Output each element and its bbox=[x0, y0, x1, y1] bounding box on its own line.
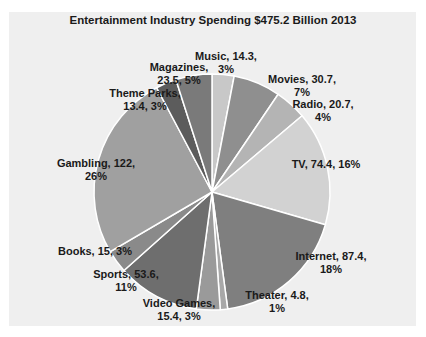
slice-label-magazines: Magazines,23.5, 5% bbox=[150, 61, 209, 86]
slice-label-tv: TV, 74.4, 16% bbox=[292, 158, 361, 170]
pie-chart: Music, 14.3,3%Movies, 30.7,7%Radio, 20.7… bbox=[0, 0, 426, 337]
slice-label-books: Books, 15, 3% bbox=[58, 245, 132, 257]
